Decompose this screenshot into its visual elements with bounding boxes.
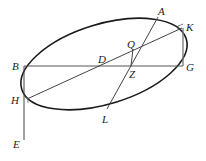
- label-h: H: [10, 94, 20, 106]
- right-angle-mark-h: [24, 96, 28, 103]
- diagram-svg: A K Q B D Z G H L E: [0, 0, 206, 161]
- ellipse-diagram: A K Q B D Z G H L E: [0, 0, 206, 161]
- label-d: D: [97, 53, 106, 65]
- line-al: [107, 17, 158, 109]
- label-e: E: [12, 138, 20, 150]
- label-q: Q: [127, 38, 135, 50]
- label-z: Z: [129, 68, 136, 80]
- label-k: K: [185, 21, 194, 33]
- label-g: G: [186, 61, 194, 73]
- label-a: A: [157, 5, 165, 17]
- label-l: L: [101, 113, 108, 125]
- label-b: B: [12, 60, 19, 72]
